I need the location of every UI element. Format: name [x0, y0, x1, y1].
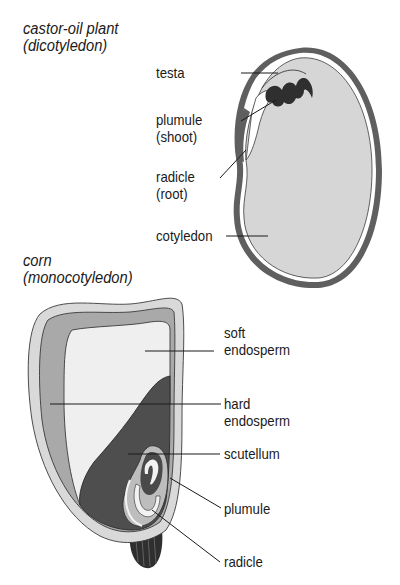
castor-title: castor-oil plant — [23, 20, 118, 37]
label-soft-endosperm: endosperm — [224, 341, 290, 358]
label-hard: hard — [224, 395, 250, 412]
seed-illustrations — [0, 0, 400, 585]
label-plumule-sub: (shoot) — [156, 128, 197, 145]
corn-subtitle: (monocotyledon) — [23, 269, 133, 286]
label-plumule: plumule — [156, 111, 202, 128]
label-cotyledon: cotyledon — [156, 227, 213, 244]
corn-title: corn — [23, 252, 52, 269]
label-corn-radicle: radicle — [224, 553, 263, 570]
castor-subtitle: (dicotyledon) — [23, 37, 107, 54]
castor-seed — [220, 48, 382, 289]
corn-kernel — [28, 298, 221, 568]
label-hard-endosperm: endosperm — [224, 412, 290, 429]
seed-diagram-canvas: castor-oil plant (dicotyledon) corn (mon… — [0, 0, 400, 585]
label-corn-plumule: plumule — [224, 500, 270, 517]
label-soft: soft — [224, 324, 245, 341]
label-testa: testa — [156, 64, 185, 81]
label-radicle: radicle — [156, 168, 195, 185]
label-scutellum: scutellum — [224, 445, 280, 462]
label-radicle-sub: (root) — [156, 185, 188, 202]
